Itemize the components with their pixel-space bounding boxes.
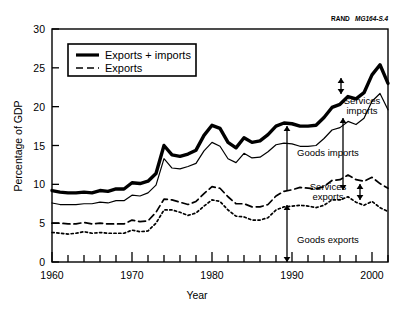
x-tick-label: 1980 <box>200 269 224 281</box>
y-tick-label: 25 <box>33 62 45 74</box>
annotation-goods-imports: Goods imports <box>297 147 359 158</box>
legend-label-exports: Exports <box>105 62 143 74</box>
y-tick-label: 30 <box>33 23 45 35</box>
y-tick-label: 10 <box>33 178 45 190</box>
trade-share-of-gdp-line-chart: RAND MG164-S.4 051015202530 196019701980… <box>0 0 408 315</box>
credit-brand: RAND <box>331 15 350 22</box>
annotation-goods-exports-label: Goods exports <box>297 234 359 245</box>
legend-label-exports-imports: Exports + imports <box>105 49 191 61</box>
chart-figure: RAND MG164-S.4 051015202530 196019701980… <box>0 0 408 315</box>
y-tick-label: 5 <box>39 217 45 229</box>
annotation-services-exports: Services exports <box>310 181 347 202</box>
y-tick-label: 15 <box>33 140 45 152</box>
x-axis-title: Year <box>186 289 208 301</box>
y-tick-label: 0 <box>39 256 45 268</box>
credit-line: RAND MG164-S.4 <box>331 15 389 22</box>
x-axis-minor-ticks <box>68 255 388 262</box>
x-tick-label: 2000 <box>360 269 384 281</box>
annotation-goods-exports: Goods exports <box>297 234 359 245</box>
annotation-services-imports: Services imports <box>344 95 381 116</box>
x-tick-label: 1970 <box>120 269 144 281</box>
annotation-services-imports-line2: imports <box>346 105 377 116</box>
y-axis-title: Percentage of GDP <box>12 100 24 191</box>
x-tick-label: 1960 <box>40 269 64 281</box>
y-tick-label: 20 <box>33 101 45 113</box>
annotation-goods-imports-label: Goods imports <box>297 147 359 158</box>
annotation-services-exports-line2: exports <box>312 191 343 202</box>
chart-legend[interactable]: Exports + imports Exports <box>68 44 196 76</box>
x-tick-label: 1990 <box>280 269 304 281</box>
credit-doc-id: MG164-S.4 <box>355 15 389 22</box>
